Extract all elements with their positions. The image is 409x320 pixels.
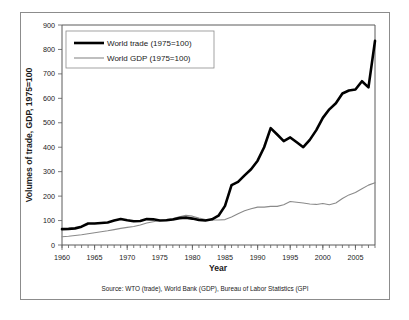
chart-legend[interactable]: World trade (1975=100) World GDP (1975=1… xyxy=(66,31,214,68)
x-tick-label: 1990 xyxy=(250,253,266,262)
y-tick-label: 600 xyxy=(43,94,55,103)
y-tick-label: 0 xyxy=(51,241,55,250)
x-tick-label: 1985 xyxy=(217,253,233,262)
x-tick-label: 2000 xyxy=(315,253,331,262)
x-axis-ticks: 1960196519701975198019851990199520002005 xyxy=(54,245,363,262)
series-line-world-trade xyxy=(62,41,375,229)
x-tick-label: 2005 xyxy=(347,253,363,262)
y-axis-ticks: 0100200300400500600700800900 xyxy=(43,21,62,250)
x-tick-label: 1970 xyxy=(119,253,135,262)
source-note: Source: WTO (trade), World Bank (GDP), B… xyxy=(101,285,308,293)
x-axis-title: Year xyxy=(209,263,228,273)
x-tick-label: 1980 xyxy=(184,253,200,262)
legend-label-world-trade: World trade (1975=100) xyxy=(107,39,192,48)
y-tick-label: 200 xyxy=(43,192,55,201)
y-tick-label: 400 xyxy=(43,143,55,152)
y-tick-label: 700 xyxy=(43,69,55,78)
legend-label-world-gdp: World GDP (1975=100) xyxy=(107,54,191,63)
y-tick-label: 500 xyxy=(43,118,55,127)
y-axis-title: Volumes of trade, GDP, 1975=100 xyxy=(24,67,34,202)
y-tick-label: 900 xyxy=(43,21,55,30)
series-line-world-gdp xyxy=(62,183,375,237)
x-tick-label: 1995 xyxy=(282,253,298,262)
figure-container: 0100200300400500600700800900 19601965197… xyxy=(0,0,409,320)
line-chart: 0100200300400500600700800900 19601965197… xyxy=(0,0,409,320)
x-tick-label: 1960 xyxy=(54,253,70,262)
y-tick-label: 800 xyxy=(43,45,55,54)
y-tick-label: 100 xyxy=(43,216,55,225)
data-series-layer xyxy=(62,41,375,237)
x-tick-label: 1965 xyxy=(87,253,103,262)
y-tick-label: 300 xyxy=(43,167,55,176)
x-tick-label: 1975 xyxy=(152,253,168,262)
